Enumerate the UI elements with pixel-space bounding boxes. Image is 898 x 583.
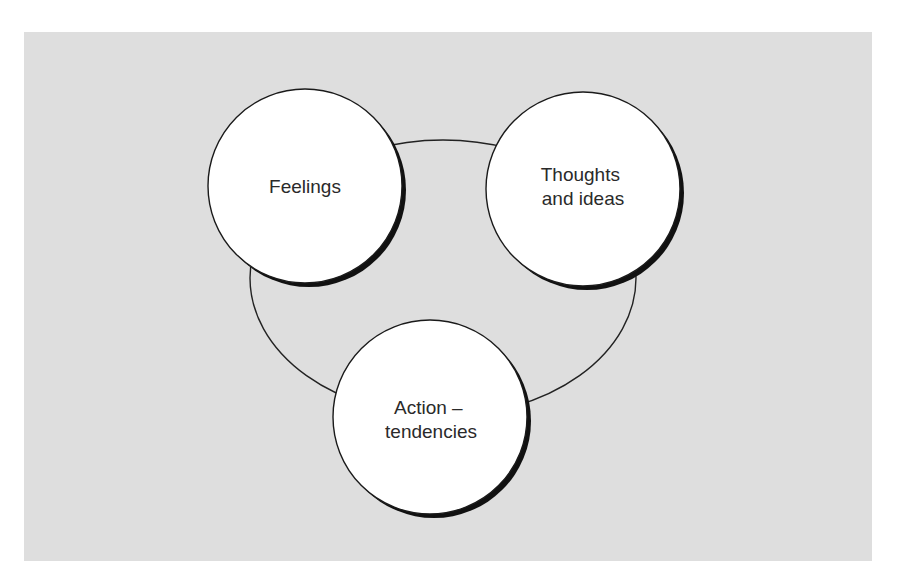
node-action-tendencies: Action – tendencies: [333, 320, 531, 518]
node-label-line-2: and ideas: [542, 188, 624, 209]
node-label: Feelings: [269, 176, 341, 197]
node-label-line-1: Thoughts: [541, 164, 620, 185]
node-label-line-2: tendencies: [385, 421, 477, 442]
node-label-line-1: Action –: [394, 397, 463, 418]
node-feelings: Feelings: [208, 89, 406, 287]
svg-text:Feelings: Feelings: [269, 176, 341, 197]
diagram-canvas: Feelings Thoughts and ideas Action – ten…: [0, 0, 898, 583]
node-thoughts-and-ideas: Thoughts and ideas: [486, 92, 684, 290]
